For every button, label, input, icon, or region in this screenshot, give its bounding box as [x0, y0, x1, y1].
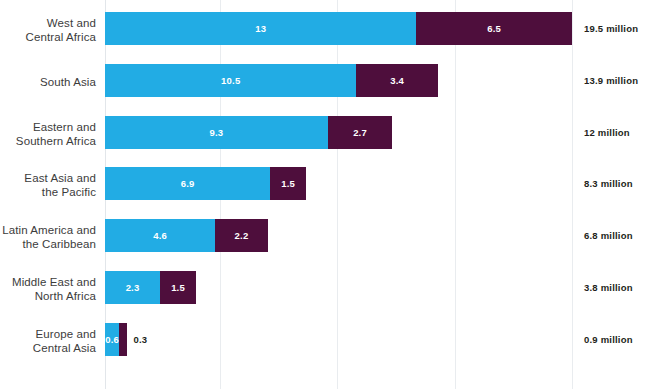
table-row: South Asia10.53.413.9 million	[0, 62, 646, 114]
table-row: Eastern andSouthern Africa9.32.712 milli…	[0, 114, 646, 166]
bar-segment-blue[interactable]: 13	[105, 12, 416, 45]
bar-value-label-purple: 1.5	[171, 282, 185, 293]
row-total-label: 0.9 million	[584, 334, 633, 345]
bar-segment-blue[interactable]: 0.6	[105, 323, 119, 356]
table-row: Europe andCentral Asia0.60.30.9 million	[0, 321, 646, 373]
stacked-bar[interactable]: 6.91.5	[105, 167, 306, 200]
bar-segment-purple[interactable]: 2.7	[328, 116, 393, 149]
stacked-bar[interactable]: 2.31.5	[105, 271, 196, 304]
bar-value-label-blue: 9.3	[209, 127, 223, 138]
table-row: Middle East andNorth Africa2.31.53.8 mil…	[0, 269, 646, 321]
category-label: Middle East andNorth Africa	[0, 275, 96, 303]
category-label-line: West and	[0, 16, 96, 30]
category-label-line: East Asia and	[0, 171, 96, 185]
row-total-label: 6.8 million	[584, 230, 633, 241]
bar-value-label-purple: 6.5	[487, 23, 501, 34]
table-row: East Asia andthe Pacific6.91.58.3 millio…	[0, 165, 646, 217]
bar-segment-purple[interactable]: 6.5	[416, 12, 572, 45]
bar-value-label-purple: 2.2	[235, 230, 249, 241]
bar-segment-purple[interactable]: 0.3	[119, 323, 126, 356]
table-row: West andCentral Africa136.519.5 million	[0, 10, 646, 62]
category-label-line: Latin America and	[0, 223, 96, 237]
bar-value-label-purple: 0.3	[134, 334, 148, 345]
bar-segment-blue[interactable]: 4.6	[105, 219, 215, 252]
stacked-bar[interactable]: 4.62.2	[105, 219, 268, 252]
bar-segment-purple[interactable]: 3.4	[356, 64, 437, 97]
category-label-line: Southern Africa	[0, 134, 96, 148]
bar-value-label-blue: 4.6	[153, 230, 167, 241]
category-label: West andCentral Africa	[0, 16, 96, 44]
bar-segment-blue[interactable]: 9.3	[105, 116, 328, 149]
bar-segment-purple[interactable]: 2.2	[215, 219, 268, 252]
category-label-line: Central Asia	[0, 341, 96, 355]
category-label-line: Eastern and	[0, 120, 96, 134]
row-total-label: 12 million	[584, 127, 630, 138]
bar-segment-purple[interactable]: 1.5	[160, 271, 196, 304]
bar-value-label-blue: 13	[255, 23, 266, 34]
bar-value-label-blue: 2.3	[126, 282, 140, 293]
bar-segment-blue[interactable]: 10.5	[105, 64, 356, 97]
category-label-line: Central Africa	[0, 30, 96, 44]
bar-value-label-blue: 6.9	[181, 178, 195, 189]
category-label: South Asia	[0, 75, 96, 89]
bar-value-label-purple: 3.4	[390, 75, 404, 86]
stacked-bar[interactable]: 0.60.3	[105, 323, 127, 356]
bar-segment-blue[interactable]: 2.3	[105, 271, 160, 304]
row-total-label: 8.3 million	[584, 178, 633, 189]
category-label-line: Middle East and	[0, 275, 96, 289]
stacked-bar-chart: West andCentral Africa136.519.5 millionS…	[0, 0, 646, 389]
bar-value-label-blue: 10.5	[221, 75, 240, 86]
stacked-bar[interactable]: 136.5	[105, 12, 572, 45]
bar-segment-blue[interactable]: 6.9	[105, 167, 270, 200]
category-label-line: Europe and	[0, 327, 96, 341]
category-label-line: the Pacific	[0, 185, 96, 199]
row-total-label: 13.9 million	[584, 75, 638, 86]
stacked-bar[interactable]: 10.53.4	[105, 64, 438, 97]
row-total-label: 19.5 million	[584, 23, 638, 34]
category-label: Europe andCentral Asia	[0, 327, 96, 355]
stacked-bar[interactable]: 9.32.7	[105, 116, 392, 149]
category-label-line: the Caribbean	[0, 237, 96, 251]
table-row: Latin America andthe Caribbean4.62.26.8 …	[0, 217, 646, 269]
category-label-line: North Africa	[0, 289, 96, 303]
category-label-line: South Asia	[0, 75, 96, 89]
bar-value-label-purple: 2.7	[353, 127, 367, 138]
category-label: East Asia andthe Pacific	[0, 171, 96, 199]
bar-value-label-purple: 1.5	[281, 178, 295, 189]
bar-segment-purple[interactable]: 1.5	[270, 167, 306, 200]
category-label: Latin America andthe Caribbean	[0, 223, 96, 251]
row-total-label: 3.8 million	[584, 282, 633, 293]
category-label: Eastern andSouthern Africa	[0, 120, 96, 148]
bar-value-label-blue: 0.6	[105, 334, 119, 345]
